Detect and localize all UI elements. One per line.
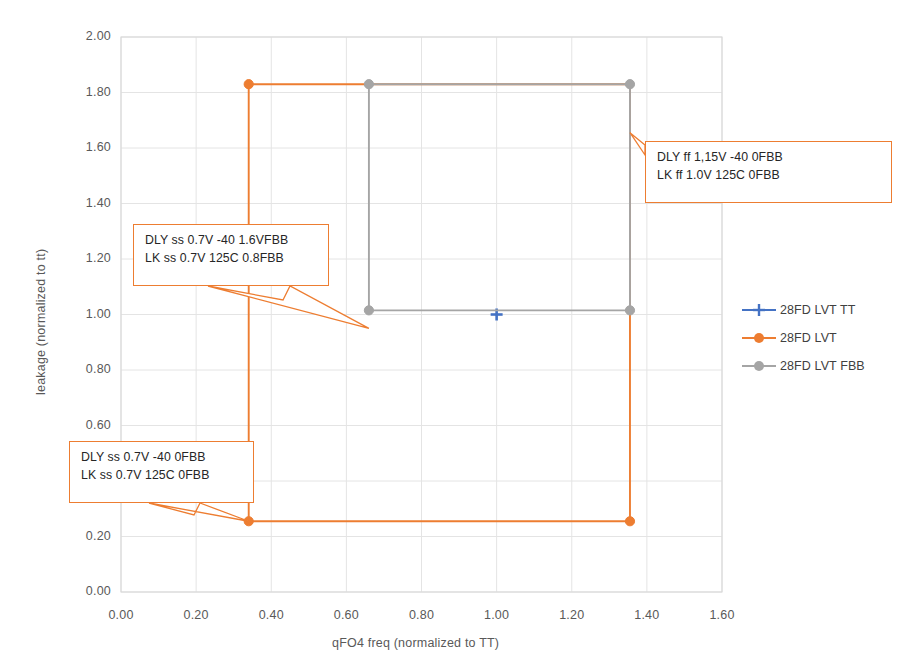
- y-axis-title: leakage (normalized to tt): [34, 249, 48, 395]
- annotation-ff: DLY ff 1,15V -40 0FBB LK ff 1.0V 125C 0F…: [645, 141, 892, 203]
- legend-marker-icon: [742, 331, 776, 345]
- chart-legend: 28FD LVT TT28FD LVT28FD LVT FBB: [742, 296, 902, 380]
- data-point-2: [625, 306, 634, 315]
- y-tick-label: 2.00: [55, 29, 111, 43]
- legend-label: 28FD LVT: [780, 331, 837, 345]
- y-tick-label: 0.80: [55, 362, 111, 376]
- y-tick-label: 1.40: [55, 196, 111, 210]
- data-point-2: [625, 80, 634, 89]
- y-tick-label: 0.00: [55, 584, 111, 598]
- annotation-ff-line1: DLY ff 1,15V -40 0FBB: [657, 149, 882, 167]
- data-point-1: [625, 517, 634, 526]
- annotation-ff-leader: [630, 133, 645, 155]
- y-tick-label: 1.20: [55, 251, 111, 265]
- y-tick-label: 1.80: [55, 85, 111, 99]
- annotation-ss-fbb-line1: DLY ss 0.7V -40 1.6VFBB: [145, 232, 319, 250]
- x-tick-label: 1.00: [467, 608, 527, 622]
- annotation-ss-line2: LK ss 0.7V 125C 0FBB: [81, 467, 244, 485]
- annotation-ss-fbb: DLY ss 0.7V -40 1.6VFBB LK ss 0.7V 125C …: [133, 224, 329, 286]
- data-point-2: [364, 80, 373, 89]
- legend-marker-icon: [742, 359, 776, 373]
- annotation-ss-fbb-leader: [208, 286, 369, 328]
- x-tick-label: 0.80: [392, 608, 452, 622]
- data-point-2: [364, 306, 373, 315]
- x-tick-label: 1.20: [542, 608, 602, 622]
- y-tick-label: 1.60: [55, 140, 111, 154]
- legend-item-1[interactable]: 28FD LVT: [742, 324, 902, 352]
- legend-item-0[interactable]: 28FD LVT TT: [742, 296, 902, 324]
- legend-label: 28FD LVT TT: [780, 303, 855, 317]
- annotation-ss: DLY ss 0.7V -40 0FBB LK ss 0.7V 125C 0FB…: [69, 441, 254, 503]
- annotation-ss-leader: [149, 503, 249, 521]
- x-tick-label: 0.40: [241, 608, 301, 622]
- x-axis-title: qFO4 freq (normalized to TT): [332, 636, 499, 650]
- legend-marker-icon: [742, 303, 776, 317]
- x-tick-label: 0.20: [166, 608, 226, 622]
- x-tick-label: 0.00: [91, 608, 151, 622]
- data-point-1: [244, 80, 253, 89]
- x-tick-label: 1.40: [617, 608, 677, 622]
- legend-item-2[interactable]: 28FD LVT FBB: [742, 352, 902, 380]
- annotation-ff-line2: LK ff 1.0V 125C 0FBB: [657, 167, 882, 185]
- chart-canvas: 0.000.200.400.600.801.001.201.401.601.80…: [0, 0, 913, 672]
- y-tick-label: 0.60: [55, 418, 111, 432]
- y-tick-label: 0.20: [55, 529, 111, 543]
- series-line-2: [369, 84, 630, 310]
- annotation-ss-fbb-line2: LK ss 0.7V 125C 0.8FBB: [145, 250, 319, 268]
- legend-label: 28FD LVT FBB: [780, 359, 865, 373]
- annotation-ss-line1: DLY ss 0.7V -40 0FBB: [81, 449, 244, 467]
- x-tick-label: 0.60: [316, 608, 376, 622]
- y-tick-label: 1.00: [55, 307, 111, 321]
- x-tick-label: 1.60: [692, 608, 752, 622]
